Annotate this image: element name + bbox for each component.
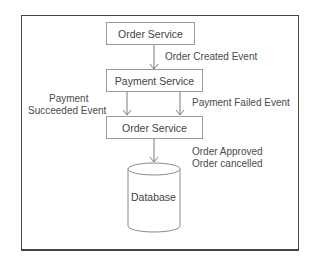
order-approved-label: Order Approved: [192, 146, 263, 158]
payment-service-label: Payment Service: [115, 75, 194, 87]
payment-service-node: Payment Service: [106, 69, 203, 92]
order-service-bottom-node: Order Service: [106, 116, 203, 139]
database-label: Database: [131, 191, 176, 203]
payment-failed-event-label: Payment Failed Event: [192, 97, 290, 109]
payment-succeeded-event-label-line2: Succeeded Event: [28, 105, 106, 117]
order-created-event-label: Order Created Event: [165, 51, 257, 63]
order-service-top-label: Order Service: [118, 28, 183, 40]
payment-succeeded-event-label-line1: Payment: [49, 93, 88, 105]
order-cancelled-label: Order cancelled: [192, 158, 263, 170]
order-service-top-node: Order Service: [106, 22, 195, 45]
order-service-bottom-label: Order Service: [122, 122, 187, 134]
